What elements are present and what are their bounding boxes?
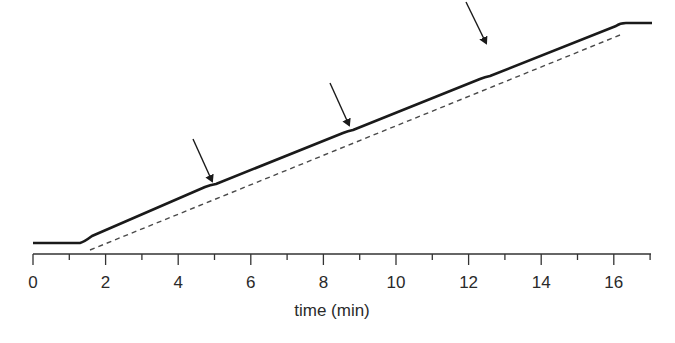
tick-label: 4: [173, 273, 182, 292]
tick-label: 16: [604, 273, 623, 292]
tick-label: 8: [319, 273, 328, 292]
arrow-icon: [330, 83, 349, 125]
x-tick-labels: 0 2 4 6 8 10 12 14 16: [28, 273, 623, 292]
tick-label: 0: [28, 273, 37, 292]
solid-measured-line: [33, 23, 652, 243]
tick-label: 2: [101, 273, 110, 292]
chart: 0 2 4 6 8 10 12 14 16 time (min): [0, 0, 675, 343]
tick-label: 12: [459, 273, 478, 292]
x-axis-ticks: [33, 254, 650, 265]
arrow-icon: [466, 2, 486, 43]
x-axis-label: time (min): [294, 301, 370, 320]
tick-label: 10: [387, 273, 406, 292]
tick-label: 6: [246, 273, 255, 292]
dashed-reference-line: [90, 35, 620, 250]
tick-label: 14: [532, 273, 551, 292]
arrow-icon: [193, 139, 212, 181]
